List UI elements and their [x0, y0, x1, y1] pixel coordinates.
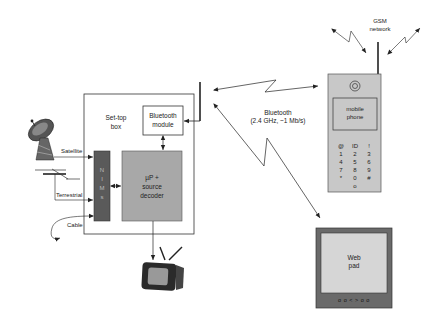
nim-letter-m: M: [100, 185, 105, 191]
nim-letter-n: N: [100, 167, 104, 173]
satellite-dish-icon: [24, 115, 57, 160]
cable-label: Cable: [67, 222, 83, 228]
satellite-label: Satellite: [61, 148, 83, 154]
gsm-link-right: [388, 28, 420, 54]
key: @: [338, 143, 344, 149]
nims-block: N I M s: [94, 151, 110, 221]
bluetooth-module-label-1: Bluetooth: [149, 112, 177, 119]
bluetooth-module: Bluetooth module: [143, 106, 183, 135]
webpad-label-2: pad: [349, 262, 360, 270]
system-diagram: Set-top box Bluetooth module N I M s µP …: [0, 0, 440, 318]
terrestrial-label: Terrestrial: [56, 192, 82, 198]
phone-screen-label-1: mobile: [346, 106, 364, 112]
bluetooth-link-phone: [214, 80, 318, 92]
television-icon: [141, 247, 184, 291]
mobile-phone: mobile phone @ ID ! 1 2 3 4 5 6 7 8 9 * …: [328, 42, 381, 192]
webpad-label-1: Web: [347, 254, 361, 261]
decoder-label-1: µP +: [145, 174, 159, 182]
terrestrial-antenna-icon: [35, 169, 80, 179]
bluetooth-link-label-2: (2.4 GHz, ~1 Mb/s): [250, 117, 305, 125]
webpad-buttons: o o < > o o: [338, 297, 370, 303]
gsm-label-1: GSM: [373, 18, 387, 24]
bluetooth-link-label-1: Bluetooth: [264, 109, 292, 116]
decoder-label-2: source: [142, 183, 162, 190]
web-pad: Web pad o o < > o o: [316, 228, 392, 308]
nim-letter-s: s: [101, 194, 104, 200]
phone-screen-label-2: phone: [347, 114, 364, 120]
gsm-label-2: network: [369, 26, 391, 32]
gsm-link-left: [332, 29, 366, 53]
key: ID: [352, 143, 359, 149]
bluetooth-module-label-2: module: [152, 121, 174, 128]
set-top-label-1: Set-top: [106, 114, 127, 122]
decoder-block: µP + source decoder: [122, 151, 182, 221]
set-top-label-2: box: [111, 123, 122, 130]
bluetooth-wireless-links: [214, 80, 320, 218]
decoder-label-3: decoder: [140, 192, 164, 199]
